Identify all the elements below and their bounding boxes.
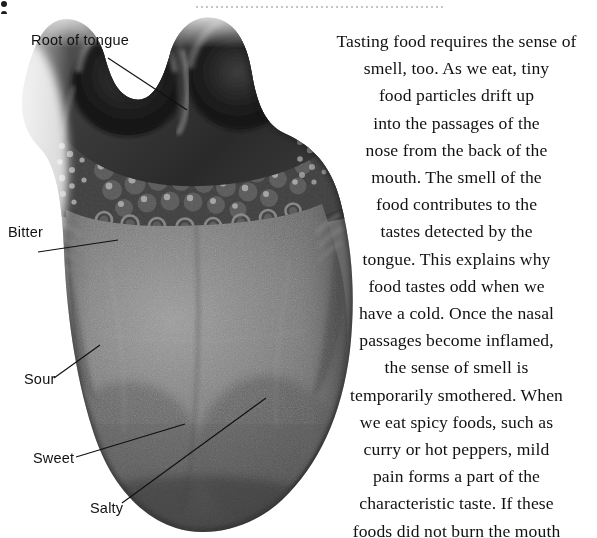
top-rule-dot [366, 6, 368, 8]
top-rule-dot [316, 6, 318, 8]
top-rule-dot [201, 6, 203, 8]
paragraph-line: pain forms a part of the [316, 463, 597, 490]
top-rule-dot [306, 6, 308, 8]
top-rule-dot [296, 6, 298, 8]
top-rule-dot [241, 6, 243, 8]
top-rule-dot [381, 6, 383, 8]
top-rule-dot [321, 6, 323, 8]
top-rule-dot [401, 6, 403, 8]
top-rule-dot [406, 6, 408, 8]
top-rule-dot [231, 6, 233, 8]
top-rule-dot [211, 6, 213, 8]
label-sour: Sour [24, 371, 55, 387]
paragraph-line: into the passages of the [316, 110, 597, 137]
label-bitter: Bitter [8, 224, 43, 240]
top-rule-dot [331, 6, 333, 8]
top-rule-dot [416, 6, 418, 8]
label-sweet: Sweet [33, 450, 74, 466]
top-rule-dot [311, 6, 313, 8]
paragraph-line: mouth. The smell of the [316, 164, 597, 191]
top-rule-dot [356, 6, 358, 8]
top-rule-dot [421, 6, 423, 8]
top-rule-dot [216, 6, 218, 8]
top-rule-dot [361, 6, 363, 8]
top-rule-dot [441, 6, 443, 8]
paragraph-line: passages become inflamed, [316, 327, 597, 354]
top-rule-dot [281, 6, 283, 8]
binding-dot [1, 1, 7, 7]
top-rule-dot [236, 6, 238, 8]
top-rule-dot [371, 6, 373, 8]
top-rule-dot [351, 6, 353, 8]
paragraph-line: have a cold. Once the nasal [316, 300, 597, 327]
top-rule-dot [376, 6, 378, 8]
paragraph-line: tastes detected by the [316, 218, 597, 245]
label-root-of-tongue: Root of tongue [31, 32, 129, 48]
paragraph-line: smell, too. As we eat, tiny [316, 55, 597, 82]
top-rule-dot [386, 6, 388, 8]
top-rule-dot [256, 6, 258, 8]
top-rule-dot [341, 6, 343, 8]
top-rule-dot [336, 6, 338, 8]
top-rule-dot [271, 6, 273, 8]
paragraph-line: curry or hot peppers, mild [316, 436, 597, 463]
article-paragraph: Tasting food requires the sense of smell… [316, 28, 597, 538]
top-rule-dot [246, 6, 248, 8]
paragraph-line: tongue. This explains why [316, 246, 597, 273]
top-rule-dot [291, 6, 293, 8]
top-rule-dot [286, 6, 288, 8]
top-rule-dot [266, 6, 268, 8]
top-rule-dot [426, 6, 428, 8]
paragraph-line: Tasting food requires the sense of [316, 28, 597, 55]
paragraph-line: characteristic taste. If these [316, 490, 597, 517]
top-rule-dot [326, 6, 328, 8]
top-rule-dot [436, 6, 438, 8]
top-rule-dot [431, 6, 433, 8]
paragraph-line: temporarily smothered. When [316, 382, 597, 409]
top-rule-dot [221, 6, 223, 8]
top-rule-dot [196, 6, 198, 8]
top-rule-dot [301, 6, 303, 8]
paragraph-line: the sense of smell is [316, 354, 597, 381]
top-rule-dot [411, 6, 413, 8]
top-rule-dot [346, 6, 348, 8]
top-rule-dot [396, 6, 398, 8]
top-dotted-rule [196, 6, 446, 10]
paragraph-line: nose from the back of the [316, 137, 597, 164]
top-rule-dot [251, 6, 253, 8]
paragraph-line: food particles drift up [316, 82, 597, 109]
paragraph-line: we eat spicy foods, such as [316, 409, 597, 436]
label-salty: Salty [90, 500, 123, 516]
top-rule-dot [226, 6, 228, 8]
paragraph-line: food tastes odd when we [316, 273, 597, 300]
paragraph-line: food contributes to the [316, 191, 597, 218]
top-rule-dot [391, 6, 393, 8]
top-rule-dot [276, 6, 278, 8]
top-rule-dot [206, 6, 208, 8]
top-rule-dot [261, 6, 263, 8]
paragraph-line: foods did not burn the mouth [316, 518, 597, 538]
page-root: Root of tongue Bitter Sour Sweet Salty T… [0, 0, 597, 538]
